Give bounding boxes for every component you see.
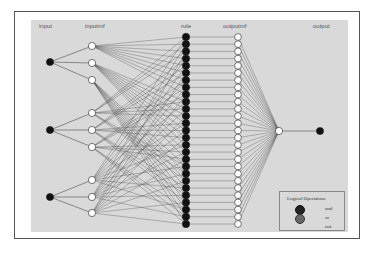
rule-node — [182, 62, 189, 69]
outputmf-node — [235, 163, 242, 170]
rule-node — [182, 33, 189, 40]
layer-label-input: input — [39, 23, 52, 29]
rule-node — [182, 105, 189, 112]
outputmf-node — [235, 185, 242, 192]
inputmf-node — [88, 109, 95, 116]
edge — [92, 202, 186, 213]
outputmf-node — [235, 206, 242, 213]
rule-node — [182, 112, 189, 119]
rule-node — [182, 127, 189, 134]
inputmf-node — [88, 42, 95, 49]
outputmf-node — [235, 55, 242, 62]
edge — [238, 131, 279, 181]
outputmf-node — [235, 134, 242, 141]
edge — [238, 131, 279, 217]
input-node — [46, 193, 53, 200]
edge — [92, 46, 186, 51]
rule-node — [182, 134, 189, 141]
input-node — [46, 126, 53, 133]
edge — [238, 51, 279, 131]
edge — [238, 37, 279, 131]
outputmf-node — [235, 113, 242, 120]
layer-label-output: output — [313, 23, 330, 29]
outputmf-node — [235, 70, 242, 77]
rule-node — [182, 213, 189, 220]
legend-label-not: not — [325, 224, 331, 229]
layer-label-inputmf: inputmf — [85, 23, 105, 29]
rule-node — [182, 177, 189, 184]
edge — [50, 113, 92, 130]
outputmf-node — [235, 192, 242, 199]
rule-node — [182, 148, 189, 155]
inputmf-node — [88, 76, 95, 83]
edge — [92, 147, 186, 210]
edge — [50, 46, 92, 62]
inputmf-node — [88, 126, 95, 133]
rule-node — [182, 84, 189, 91]
rule-node — [182, 76, 189, 83]
rule-node — [182, 40, 189, 47]
outputmf-node — [235, 34, 242, 41]
layer-label-outputmf: outputmf — [223, 23, 246, 29]
outputmf-node — [235, 120, 242, 127]
edge — [92, 213, 186, 224]
edge — [50, 62, 92, 80]
outputmf-node — [235, 177, 242, 184]
legend-item-not: not — [280, 223, 344, 232]
outputmf-node — [235, 77, 242, 84]
rule-node — [182, 156, 189, 163]
outputmf-node — [235, 141, 242, 148]
outputmf-node — [235, 127, 242, 134]
legend-label-or: or — [325, 215, 329, 220]
edge — [50, 197, 92, 213]
outputmf-node — [235, 84, 242, 91]
outputmf-node — [235, 170, 242, 177]
rule-node — [182, 163, 189, 170]
rule-node — [182, 220, 189, 227]
edge — [92, 46, 186, 66]
rule-node — [182, 170, 189, 177]
outputmf-node — [235, 62, 242, 69]
rule-node — [182, 120, 189, 127]
edge — [92, 147, 186, 152]
rule-node — [182, 192, 189, 199]
inputmf-node — [88, 193, 95, 200]
outputmf-node — [235, 213, 242, 220]
legend-box: Logical Operations and or not — [279, 191, 345, 231]
rule-node — [182, 55, 189, 62]
outputmf-node — [235, 149, 242, 156]
edge — [50, 62, 92, 63]
input-node — [46, 58, 53, 65]
outputmf-node — [235, 48, 242, 55]
edge — [50, 180, 92, 197]
legend-label-and: and — [325, 206, 332, 211]
legend-item-and: and — [280, 205, 344, 214]
rule-node — [182, 69, 189, 76]
outputmf-node — [235, 221, 242, 228]
rule-node — [182, 91, 189, 98]
edge — [238, 131, 279, 132]
edge — [238, 66, 279, 131]
rule-node — [182, 98, 189, 105]
outputmf-node — [235, 199, 242, 206]
rule-node — [182, 184, 189, 191]
outputmf-node — [235, 106, 242, 113]
aggregation-node — [275, 127, 282, 134]
outputmf-node — [235, 156, 242, 163]
rule-node — [182, 206, 189, 213]
edge — [238, 73, 279, 131]
rule-node — [182, 199, 189, 206]
outputmf-node — [235, 91, 242, 98]
edge — [50, 130, 92, 147]
legend-title: Logical Operations — [287, 196, 325, 201]
rule-node — [182, 48, 189, 55]
edge — [238, 131, 279, 195]
edge — [238, 95, 279, 131]
outputmf-node — [235, 41, 242, 48]
legend-item-or: or — [280, 214, 344, 223]
edge — [92, 63, 186, 109]
outputmf-node — [235, 98, 242, 105]
inputmf-node — [88, 59, 95, 66]
inputmf-node — [88, 143, 95, 150]
output-node — [316, 127, 323, 134]
